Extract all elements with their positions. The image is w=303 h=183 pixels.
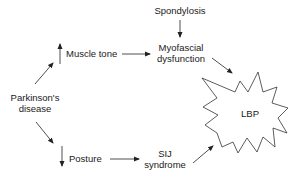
muscle-tone-label: Muscle tone <box>66 48 117 59</box>
node-myofascial-dysfunction: Myofascial dysfunction <box>150 42 212 64</box>
arrow-parkinsons-to-muscle-tone <box>35 63 53 84</box>
spondylosis-label: Spondylosis <box>154 5 205 16</box>
node-parkinsons-disease: Parkinson's disease <box>5 92 65 114</box>
node-sij-syndrome: SIJ syndrome <box>138 148 192 170</box>
sij-label-line1: SIJ <box>138 148 192 159</box>
arrow-myofascial-to-lbp <box>212 58 232 73</box>
parkinsons-label-line1: Parkinson's <box>5 92 65 103</box>
arrow-parkinsons-to-posture <box>36 122 53 143</box>
parkinsons-label-line2: disease <box>5 103 65 114</box>
node-spondylosis: Spondylosis <box>150 5 210 16</box>
node-posture: Posture <box>69 153 102 164</box>
myofascial-label-line1: Myofascial <box>150 42 212 53</box>
arrow-sij-to-lbp <box>193 146 213 163</box>
posture-label: Posture <box>69 153 102 164</box>
lbp-label: LBP <box>241 108 259 119</box>
node-lbp: LBP <box>235 108 265 119</box>
sij-label-line2: syndrome <box>138 159 192 170</box>
node-muscle-tone: Muscle tone <box>66 48 117 59</box>
myofascial-label-line2: dysfunction <box>150 53 212 64</box>
